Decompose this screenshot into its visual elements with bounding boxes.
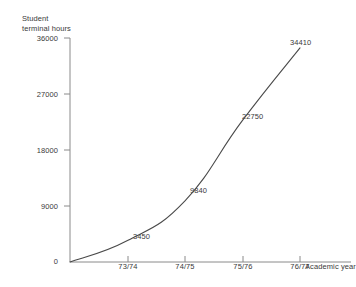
chart-figure: Student terminal hours 36000 27000 18000… xyxy=(0,0,356,287)
data-series-line xyxy=(70,48,300,262)
plot-area xyxy=(0,0,356,287)
